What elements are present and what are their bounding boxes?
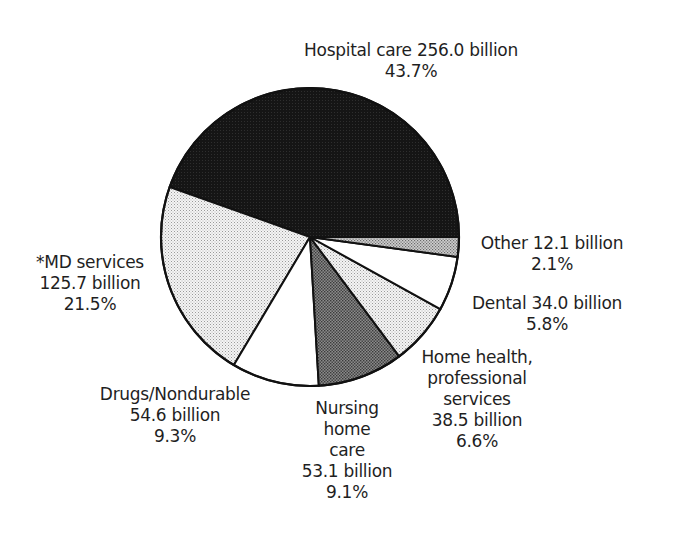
label-home-health: Home health, professional services 38.5 …	[412, 347, 542, 452]
label-other-percent: 2.1%	[462, 254, 642, 275]
label-home-health-value: 38.5 billion	[412, 410, 542, 431]
label-drugs-value: 54.6 billion	[80, 405, 270, 426]
pie-slices	[161, 88, 459, 386]
label-nursing-home-care: Nursing home care 53.1 billion 9.1%	[292, 398, 402, 503]
label-nursing-line1: Nursing	[292, 398, 402, 419]
label-dental: Dental 34.0 billion 5.8%	[452, 293, 642, 335]
label-other-name-value: Other 12.1 billion	[462, 233, 642, 254]
label-hospital-name-value: Hospital care 256.0 billion	[282, 40, 540, 61]
label-drugs-nondurable: Drugs/Nondurable 54.6 billion 9.3%	[80, 384, 270, 447]
label-home-health-line3: services	[412, 389, 542, 410]
label-md-name: *MD services	[20, 252, 160, 273]
label-dental-name-value: Dental 34.0 billion	[452, 293, 642, 314]
label-nursing-percent: 9.1%	[292, 482, 402, 503]
label-home-health-percent: 6.6%	[412, 431, 542, 452]
label-hospital-care: Hospital care 256.0 billion 43.7%	[282, 40, 540, 82]
label-md-percent: 21.5%	[20, 294, 160, 315]
label-hospital-percent: 43.7%	[282, 61, 540, 82]
label-home-health-line1: Home health,	[412, 347, 542, 368]
label-nursing-value: 53.1 billion	[292, 461, 402, 482]
label-home-health-line2: professional	[412, 368, 542, 389]
label-md-value: 125.7 billion	[20, 273, 160, 294]
label-drugs-percent: 9.3%	[80, 426, 270, 447]
label-md-services: *MD services 125.7 billion 21.5%	[20, 252, 160, 315]
label-dental-percent: 5.8%	[452, 314, 642, 335]
label-other: Other 12.1 billion 2.1%	[462, 233, 642, 275]
label-drugs-name: Drugs/Nondurable	[80, 384, 270, 405]
label-nursing-line2: home	[292, 419, 402, 440]
label-nursing-line3: care	[292, 440, 402, 461]
